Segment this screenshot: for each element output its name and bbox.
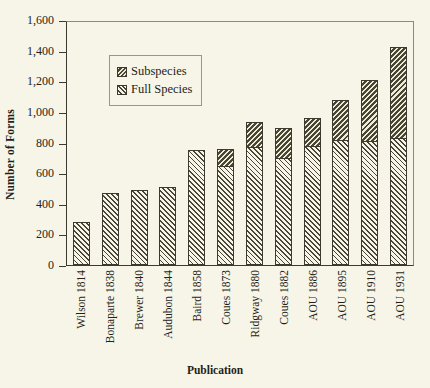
y-axis-title: Number of Forms — [2, 60, 18, 250]
legend-swatch-full-species — [117, 85, 127, 95]
bar-segment-full-species[interactable] — [390, 139, 407, 265]
y-axis-tick: 1,000 — [0, 113, 66, 114]
stacked-bar[interactable] — [332, 100, 349, 265]
y-axis-tick: 0 — [0, 266, 66, 267]
y-axis-tick-label: 1,600 — [27, 13, 54, 28]
bar-segment-full-species[interactable] — [131, 190, 148, 265]
bar-segment-full-species[interactable] — [246, 148, 263, 265]
x-axis-tick-label: Audubon 1844 — [162, 270, 174, 339]
x-axis-tick-label: Brewer 1840 — [133, 270, 145, 330]
x-axis-title: Publication — [0, 364, 430, 376]
bar-slot — [211, 22, 240, 265]
x-axis-tick-label: Bonaparte 1838 — [104, 270, 116, 343]
y-axis-tick: 800 — [0, 144, 66, 145]
x-axis-tick-slot: Baird 1858 — [182, 268, 211, 364]
x-axis-tick-label: Baird 1858 — [191, 270, 203, 321]
stacked-bar[interactable] — [246, 122, 263, 265]
y-axis-tick-label: 1,000 — [27, 105, 54, 120]
stacked-bar[interactable] — [275, 128, 292, 265]
y-axis-tick-mark — [59, 205, 66, 206]
y-axis-tick-label: 200 — [36, 227, 54, 242]
y-axis-tick-mark — [59, 144, 66, 145]
y-axis-tick-label: 600 — [36, 166, 54, 181]
bar-slot — [298, 22, 327, 265]
bar-segment-full-species[interactable] — [217, 167, 234, 265]
stacked-bar[interactable] — [217, 149, 234, 265]
x-axis-tick-label: AOU 1886 — [307, 270, 319, 321]
x-axis-tick-labels: Wilson 1814Bonaparte 1838Brewer 1840Audu… — [66, 268, 414, 364]
x-axis-tick-label: Coues 1873 — [220, 270, 232, 325]
legend-item-full-species: Full Species — [117, 82, 192, 97]
y-axis-tick-mark — [59, 266, 66, 267]
y-axis-tick: 200 — [0, 235, 66, 236]
y-axis-tick: 400 — [0, 205, 66, 206]
chart-legend: Subspecies Full Species — [109, 55, 202, 106]
y-axis-tick-label: 800 — [36, 136, 54, 151]
bar-slot — [355, 22, 384, 265]
x-axis-tick-slot: Bonaparte 1838 — [95, 268, 124, 364]
stacked-bar[interactable] — [304, 118, 321, 265]
y-axis-tick: 1,400 — [0, 52, 66, 53]
bar-segment-full-species[interactable] — [159, 187, 176, 265]
y-axis-tick: 1,600 — [0, 21, 66, 22]
y-axis-tick: 600 — [0, 174, 66, 175]
bar-segment-full-species[interactable] — [275, 159, 292, 265]
stacked-bar[interactable] — [131, 190, 148, 265]
stacked-bar[interactable] — [188, 150, 205, 265]
legend-label-full-species: Full Species — [131, 82, 192, 97]
bar-segment-full-species[interactable] — [188, 150, 205, 265]
y-axis-tick-mark — [59, 174, 66, 175]
x-axis-tick-slot: AOU 1886 — [298, 268, 327, 364]
x-axis-tick-slot: AOU 1910 — [356, 268, 385, 364]
stacked-bar[interactable] — [159, 187, 176, 265]
x-axis-tick-slot: Audubon 1844 — [153, 268, 182, 364]
stacked-bar[interactable] — [102, 193, 119, 265]
x-axis-tick-slot: Brewer 1840 — [124, 268, 153, 364]
stacked-bar[interactable] — [390, 47, 407, 265]
x-axis-tick-slot: Ridgway 1880 — [240, 268, 269, 364]
y-axis-tick-label: 0 — [48, 258, 54, 273]
legend-label-subspecies: Subspecies — [131, 64, 187, 79]
y-axis-tick-mark — [59, 82, 66, 83]
chart-figure: Number of Forms 1,6001,4001,2001,0008006… — [0, 0, 430, 388]
bar-segment-full-species[interactable] — [332, 141, 349, 265]
y-axis-tick: 1,200 — [0, 82, 66, 83]
x-axis-tick-label: AOU 1931 — [394, 270, 406, 321]
bar-segment-full-species[interactable] — [361, 142, 378, 265]
x-axis-tick-slot: Coues 1873 — [211, 268, 240, 364]
x-axis-tick-label: AOU 1895 — [336, 270, 348, 321]
y-axis-tick-mark — [59, 235, 66, 236]
bar-segment-full-species[interactable] — [304, 147, 321, 265]
bar-segment-subspecies[interactable] — [361, 80, 378, 141]
y-axis-tick-label: 1,400 — [27, 44, 54, 59]
x-axis-tick-label: Wilson 1814 — [75, 270, 87, 329]
bar-segment-subspecies[interactable] — [390, 47, 407, 140]
bar-segment-subspecies[interactable] — [246, 122, 263, 148]
stacked-bar[interactable] — [73, 222, 90, 265]
y-axis-tick-mark — [59, 113, 66, 114]
bar-segment-subspecies[interactable] — [332, 100, 349, 141]
bar-segment-subspecies[interactable] — [217, 149, 234, 167]
bar-slot — [269, 22, 298, 265]
x-axis-tick-slot: AOU 1931 — [385, 268, 414, 364]
x-axis-tick-slot: Coues 1882 — [269, 268, 298, 364]
legend-swatch-subspecies — [117, 67, 127, 77]
y-axis-tick-mark — [59, 21, 66, 22]
bar-slot — [67, 22, 96, 265]
x-axis-tick-label: Ridgway 1880 — [249, 270, 261, 337]
x-axis-tick-label: AOU 1910 — [365, 270, 377, 321]
bar-slot — [384, 22, 413, 265]
bar-segment-full-species[interactable] — [102, 193, 119, 265]
y-axis-tick-label: 400 — [36, 197, 54, 212]
x-axis-tick-slot: Wilson 1814 — [66, 268, 95, 364]
bar-segment-full-species[interactable] — [73, 222, 90, 265]
legend-item-subspecies: Subspecies — [117, 64, 192, 79]
x-axis-tick-slot: AOU 1895 — [327, 268, 356, 364]
bar-slot — [240, 22, 269, 265]
x-axis-tick-label: Coues 1882 — [278, 270, 290, 325]
bar-segment-subspecies[interactable] — [275, 128, 292, 159]
y-axis-tick-label: 1,200 — [27, 74, 54, 89]
bar-slot — [326, 22, 355, 265]
bar-segment-subspecies[interactable] — [304, 118, 321, 147]
stacked-bar[interactable] — [361, 80, 378, 265]
